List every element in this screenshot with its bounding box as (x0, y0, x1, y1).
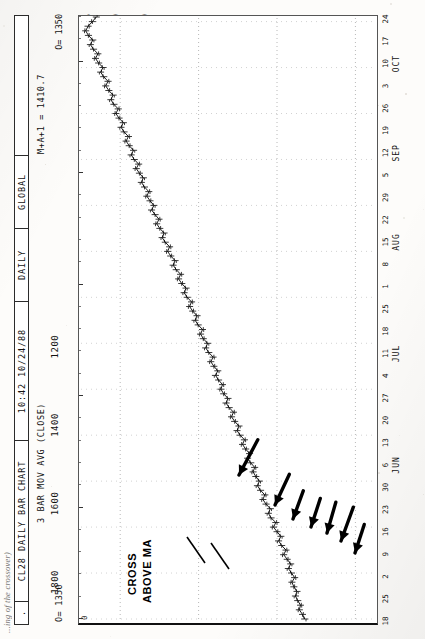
axis-tick (79, 529, 81, 530)
month-label: JUN (392, 456, 401, 473)
axis-tick (79, 596, 81, 597)
date-tick-label: 2 (381, 574, 390, 579)
axis-tick (79, 83, 81, 84)
axis-tick (79, 462, 81, 463)
header-dot-cell: . (15, 601, 28, 624)
date-tick-label: 23 (381, 505, 390, 514)
month-label: SEP (392, 144, 401, 161)
date-tick-label: 24 (381, 14, 390, 23)
terminal-header-bar: . CL28 DAILY BAR CHART 10:42 10/24/88 DA… (14, 15, 29, 625)
date-tick-label: 9 (381, 552, 390, 557)
axis-tick (79, 417, 81, 418)
axis-tick (79, 16, 81, 17)
date-tick-label: 18 (381, 616, 390, 625)
date-tick-label: 27 (381, 394, 390, 403)
axis-tick (79, 150, 81, 151)
date-tick-label: 4 (381, 373, 390, 378)
axis-tick (79, 194, 81, 195)
date-axis: 1825291623306132027411182518152229512192… (380, 15, 410, 625)
axis-tick (79, 484, 81, 485)
price-plot-area[interactable]: 0 (78, 15, 378, 625)
header-symbol-title[interactable]: CL28 DAILY BAR CHART (15, 440, 28, 601)
annotation-above-ma: ABOVE MA (141, 539, 153, 603)
ohlc-bar-chart (79, 15, 377, 623)
annotation-cross: CROSS (126, 553, 138, 595)
axis-tick (79, 38, 81, 39)
date-tick-label: 16 (381, 527, 390, 536)
rotated-chart-page: ...ing of the crossover) . CL28 DAILY BA… (0, 0, 425, 639)
month-label: JUL (392, 345, 401, 362)
price-tick-label: 1800 (50, 570, 60, 594)
header-timestamp: 10:42 10/24/88 (15, 301, 28, 440)
date-tick-label: 29 (381, 193, 390, 202)
date-tick-label: 25 (381, 304, 390, 313)
date-tick-label: 26 (381, 104, 390, 113)
header-scope[interactable]: GLOBAL (15, 155, 28, 228)
date-tick-label: 8 (381, 262, 390, 267)
axis-tick (79, 284, 83, 285)
axis-tick (79, 306, 81, 307)
axis-tick (79, 350, 81, 351)
date-tick-label: 10 (381, 59, 390, 68)
date-tick-label: 11 (381, 349, 390, 358)
date-tick-label: 6 (381, 463, 390, 468)
axis-tick (79, 328, 81, 329)
axis-tick (79, 239, 81, 240)
date-tick-label: 18 (381, 327, 390, 336)
axis-tick (79, 440, 81, 441)
axis-tick (79, 551, 81, 552)
header-blank-cell (15, 16, 28, 155)
axis-tick (79, 217, 81, 218)
date-tick-label: 5 (381, 173, 390, 178)
header-period[interactable]: DAILY (15, 228, 28, 301)
date-tick-label: 13 (381, 438, 390, 447)
date-tick-label: 3 (381, 84, 390, 89)
date-tick-label: 12 (381, 148, 390, 157)
axis-tick (79, 261, 81, 262)
month-label: AUG (392, 233, 401, 250)
date-tick-label: 25 (381, 594, 390, 603)
date-tick-label: 17 (381, 37, 390, 46)
page-caption: ...ing of the crossover) (2, 552, 12, 633)
date-tick-label: 20 (381, 416, 390, 425)
axis-tick (79, 172, 83, 173)
axis-tick (79, 573, 81, 574)
month-label: OCT (392, 55, 401, 72)
axis-tick (79, 618, 83, 619)
axis-tick (79, 507, 83, 508)
axis-tick (79, 61, 83, 62)
axis-tick (79, 395, 83, 396)
price-tick-label: 1400 (50, 413, 60, 437)
price-tick-label: 1200 (50, 335, 60, 359)
price-tick-label: 1600 (50, 492, 60, 516)
date-tick-label: 30 (381, 483, 390, 492)
date-tick-label: 22 (381, 215, 390, 224)
date-tick-label: 19 (381, 126, 390, 135)
price-axis: 1800160014001200 (44, 15, 74, 625)
axis-tick (79, 105, 81, 106)
axis-tick (79, 127, 81, 128)
date-tick-label: 1 (381, 284, 390, 289)
date-tick-label: 15 (381, 237, 390, 246)
axis-tick (79, 373, 81, 374)
